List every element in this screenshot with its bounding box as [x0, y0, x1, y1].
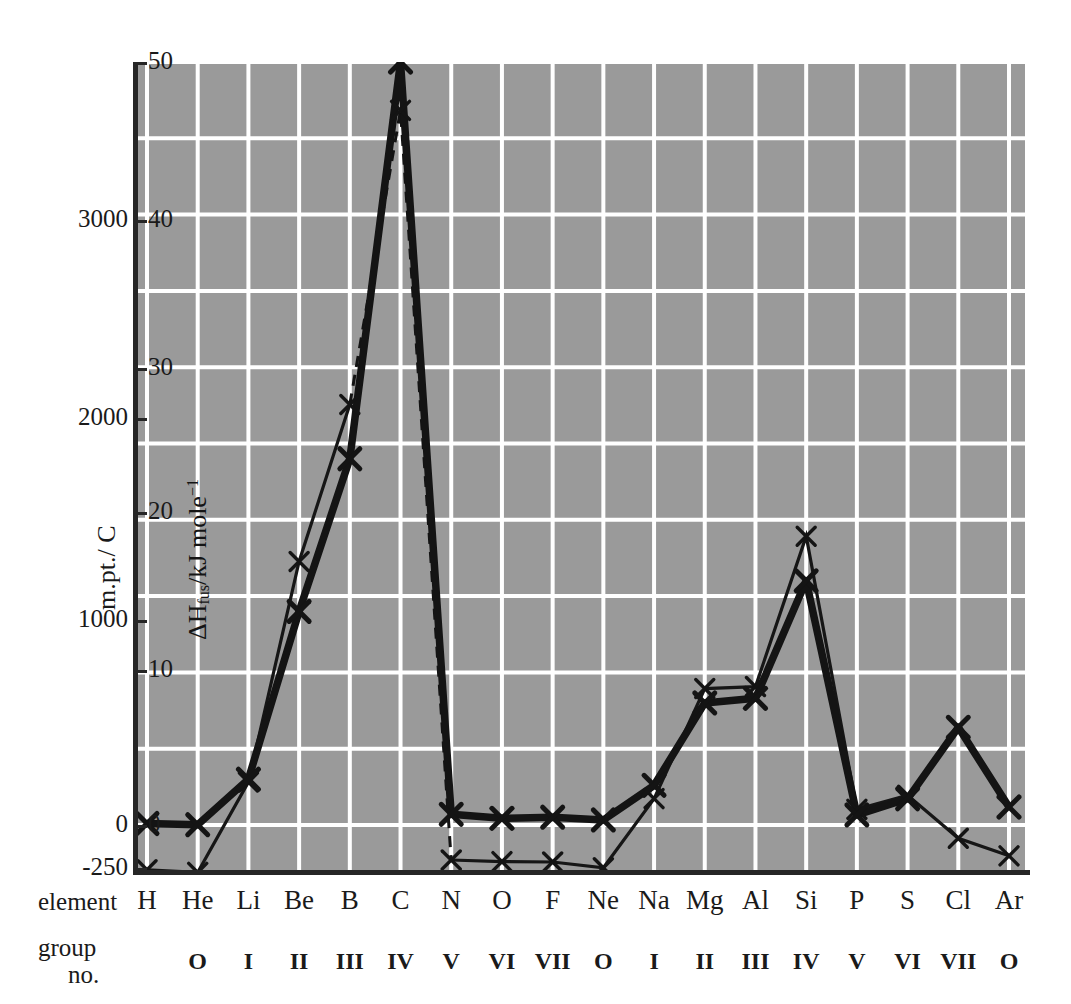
tickmark: [133, 825, 147, 828]
tickmark: [133, 62, 147, 65]
tickmark: [133, 368, 147, 371]
dh-tick-label: 0: [148, 811, 161, 836]
group-row-caption: group no.: [38, 934, 99, 988]
plot-area: [133, 62, 1025, 870]
dh-tick-label: 20: [148, 498, 173, 523]
dh-tick-label: 10: [148, 656, 173, 681]
element-label: Ar: [975, 886, 1043, 914]
mp-tick-label: 0: [116, 811, 129, 836]
melting-point-axis-ticks: 3000200010000-250: [20, 0, 128, 1004]
group-word: group: [38, 934, 96, 961]
melting-point-line: [147, 404, 1009, 870]
fus-subscript: fus: [195, 585, 212, 605]
delta-h-symbol: ΔH: [183, 605, 212, 641]
exponent: −1: [184, 479, 201, 496]
melting-point-dashed-segment: [350, 110, 451, 860]
periodicity-chart-figure: 3000200010000-250 50403020100 m.pt./ C Δ…: [0, 0, 1071, 1004]
unit-text: /kJ mole: [183, 496, 212, 585]
element-row-caption: element: [38, 888, 117, 915]
enthalpy-of-fusion-line: [147, 62, 1009, 825]
data-curves: [133, 62, 1025, 870]
tickmark: [133, 620, 147, 623]
melting-point-axis-title: m.pt./ C: [92, 525, 122, 610]
tickmark: [133, 418, 147, 421]
mp-tick-label: 2000: [78, 404, 128, 429]
enthalpy-axis-title: ΔHfus/kJ mole−1: [183, 479, 213, 640]
tickmark: [133, 670, 147, 673]
group-number-label: O: [975, 948, 1043, 974]
tickmark: [133, 512, 147, 515]
dh-tick-label: 50: [148, 48, 173, 73]
tickmark: [133, 868, 147, 871]
melting-point-markers: [138, 101, 1018, 870]
dh-tick-label: 30: [148, 354, 173, 379]
category-axis-labels: element group no. HHeLiBeBCNOFNeNaMgAlSi…: [0, 872, 1071, 1004]
dh-tick-label: 40: [148, 206, 173, 231]
mp-tick-label: 3000: [78, 206, 128, 231]
tickmark: [133, 220, 147, 223]
no-word: no.: [68, 961, 99, 988]
